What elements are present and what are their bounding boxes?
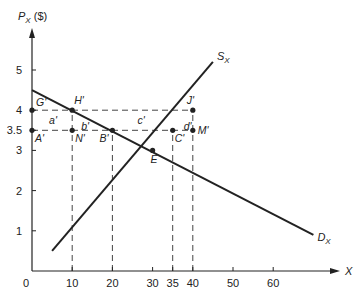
point-label: A' [34,132,45,144]
y-axis-arrow-icon [29,28,35,38]
x-tick-label: 10 [66,277,78,289]
x-tick-label: 30 [146,277,158,289]
point-marker [190,108,195,113]
point-marker [150,148,155,153]
area-label: c' [138,114,146,126]
x-tick-label: 35 [167,277,179,289]
point-label: M' [198,124,210,136]
demand-label: DX [317,231,331,246]
supply-label: SX [217,50,230,65]
x-tick-label: 0 [23,277,29,289]
x-axis-arrow-icon [330,268,340,274]
area-label: d' [184,120,193,132]
point-label: J' [186,94,195,106]
y-axis-title: PX ($) [18,10,47,25]
axes [29,28,340,274]
y-tick-label: 2 [16,185,22,197]
x-axis-title: X [344,265,353,277]
y-tick-label: 4 [16,104,22,116]
area-label: b' [81,120,90,132]
point-label: B' [99,132,109,144]
point-label: G' [36,96,47,108]
y-tick-label: 5 [16,64,22,76]
point-label: C' [175,132,186,144]
point-marker [70,128,75,133]
y-tick-label: 1 [16,225,22,237]
point-label: H' [74,94,85,106]
point-label: N' [75,132,86,144]
s-x-curve [52,62,213,251]
x-tick-label: 20 [106,277,118,289]
point-marker [110,128,115,133]
x-tick-label: 40 [187,277,199,289]
chart-labels: 0102030354050601233.545DXSXPX ($)XG'H'J'… [7,10,353,289]
y-tick-label: 3 [16,144,22,156]
area-label: a' [49,114,58,126]
x-tick-label: 60 [267,277,279,289]
point-marker [70,108,75,113]
y-tick-label: 3.5 [7,124,22,136]
supply-demand-chart: 0102030354050601233.545DXSXPX ($)XG'H'J'… [0,0,364,295]
point-marker [29,128,34,133]
point-marker [29,108,34,113]
x-tick-label: 50 [227,277,239,289]
point-label: E [151,153,159,165]
